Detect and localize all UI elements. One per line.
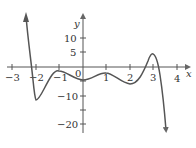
svg-text:−2: −2	[29, 72, 44, 83]
svg-text:3: 3	[150, 72, 156, 83]
x-axis-label: x	[186, 68, 192, 79]
svg-text:10: 10	[64, 33, 77, 44]
function-curve	[26, 16, 166, 130]
arrow-up-icon	[23, 12, 29, 22]
chart: −3 −2 −1 0 1 2 3 4 10 5 −10 −20 x y	[0, 0, 196, 148]
svg-text:−3: −3	[5, 72, 20, 83]
svg-text:−20: −20	[57, 119, 78, 130]
svg-text:5: 5	[70, 47, 76, 58]
y-axis-label: y	[73, 18, 80, 29]
svg-text:4: 4	[174, 73, 180, 84]
svg-text:2: 2	[127, 72, 133, 83]
svg-text:−10: −10	[57, 91, 78, 102]
